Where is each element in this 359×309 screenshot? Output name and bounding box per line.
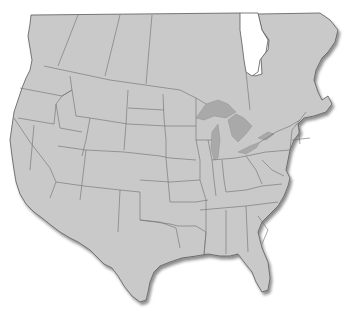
- north-america-map: [0, 0, 359, 309]
- landmass: [10, 13, 338, 302]
